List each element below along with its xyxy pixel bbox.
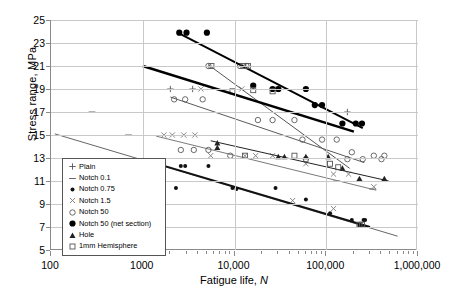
data-point-filled-circle (183, 30, 189, 36)
gridline-vertical (326, 20, 327, 250)
y-axis-tick-label: 9 (17, 198, 45, 210)
data-point-open-circle (70, 210, 75, 215)
data-point-small-filled-circle (350, 218, 354, 222)
x-axis-minor-tick (417, 251, 418, 256)
y-axis-tick-label: 25 (17, 14, 45, 26)
y-axis-tick-label: 11 (17, 175, 45, 187)
data-point-open-square (70, 244, 75, 249)
x-axis-minor-tick (219, 251, 220, 254)
y-axis-tick-label: 17 (17, 106, 45, 118)
x-axis-minor-tick (234, 251, 235, 256)
data-point-triangle (214, 145, 220, 150)
data-point-open-square (328, 161, 333, 166)
data-point-filled-circle (359, 120, 365, 126)
series-plain (167, 86, 350, 115)
data-point-open-circle (178, 147, 183, 152)
data-point-open-circle (191, 147, 196, 152)
legend-item-label: Plain (79, 163, 95, 171)
data-point-open-circle (349, 150, 354, 155)
legend-marker-open-circle-icon (66, 208, 79, 217)
x-axis-tick-label: 10,000 (194, 259, 274, 271)
data-point-open-circle (255, 117, 260, 122)
trendline (178, 33, 363, 128)
data-point-x (331, 206, 336, 211)
chart-figure: Stress range, MPa Fatigue life, N 579111… (0, 0, 459, 296)
data-point-open-circle (292, 117, 297, 122)
x-axis-minor-tick (50, 251, 51, 256)
legend-item-label: Hole (79, 231, 94, 239)
data-point-small-filled-circle (363, 218, 367, 222)
legend-item-label: Notch 0.1 (79, 174, 111, 182)
x-axis-minor-tick (261, 251, 262, 254)
x-axis-minor-tick (206, 251, 207, 254)
data-point-open-circle (319, 137, 324, 142)
legend-item: Plain (66, 161, 162, 172)
x-axis-minor-tick (369, 251, 370, 254)
data-point-plus (69, 163, 75, 169)
x-axis-tick-label: 100,000 (285, 259, 365, 271)
legend-marker-filled-circle-icon (66, 219, 79, 228)
legend-marker-plus-icon (66, 162, 79, 171)
data-point-small-filled-circle (179, 164, 183, 168)
legend-item: 1mm Hemisphere (66, 241, 162, 252)
series-notch-0-75 (153, 163, 370, 228)
data-point-x (290, 198, 295, 203)
x-axis-minor-tick (413, 251, 414, 254)
series-hole (211, 140, 389, 181)
x-axis-minor-tick (298, 251, 299, 254)
trendline (170, 97, 364, 163)
x-axis-minor-tick (229, 251, 230, 254)
chart-legend: PlainNotch 0.1Notch 0.75Notch 1.5Notch 5… (62, 158, 166, 256)
data-point-small-filled-circle (274, 186, 278, 190)
data-point-small-filled-circle (328, 211, 332, 215)
data-point-small-filled-circle (183, 164, 187, 168)
x-axis-tick-label: 1,000,000 (377, 259, 457, 271)
data-point-filled-circle (312, 102, 318, 108)
data-point-small-filled-circle (174, 186, 178, 190)
x-axis-minor-tick (397, 251, 398, 254)
data-point-small-filled-circle (71, 187, 75, 191)
legend-marker-small-filled-circle-icon (66, 185, 79, 194)
legend-item: Hole (66, 229, 162, 240)
data-point-filled-circle (204, 30, 210, 36)
legend-item-label: Notch 0.75 (79, 185, 115, 193)
y-axis-tick-label: 7 (17, 221, 45, 233)
x-axis-title-text: Fatigue life, (200, 274, 260, 286)
data-point-x (70, 198, 75, 203)
y-axis-tick-label: 15 (17, 129, 45, 141)
legend-item-label: Notch 50 (net section) (79, 220, 151, 228)
y-axis-tick-label: 23 (17, 37, 45, 49)
y-axis-tick-label: 5 (17, 244, 45, 256)
gridline-vertical (235, 20, 236, 250)
data-point-small-filled-circle (304, 197, 308, 201)
data-point-x (331, 172, 336, 177)
x-axis-minor-tick (311, 251, 312, 254)
x-axis-minor-tick (316, 251, 317, 254)
x-axis-minor-tick (289, 251, 290, 254)
x-axis-title-symbol: N (260, 274, 268, 286)
y-axis-tick-label: 13 (17, 152, 45, 164)
data-point-triangle (70, 232, 76, 237)
x-axis-tick-label: 100 (10, 259, 90, 271)
x-axis-minor-tick (389, 251, 390, 254)
trendline (153, 163, 370, 227)
y-axis-tick-label: 21 (17, 60, 45, 72)
x-axis-minor-tick (197, 251, 198, 254)
data-point-small-filled-circle (206, 164, 210, 168)
x-axis-minor-tick (353, 251, 354, 254)
x-axis-title: Fatigue life, N (50, 274, 418, 286)
series-notch-50-net-section (176, 30, 365, 129)
legend-marker-open-square-icon (66, 242, 79, 251)
legend-item: Notch 50 (66, 207, 162, 218)
x-axis-minor-tick (213, 251, 214, 254)
data-point-filled-circle (319, 102, 325, 108)
x-axis-minor-tick (325, 251, 326, 256)
legend-marker-triangle-icon (66, 231, 79, 240)
data-point-filled-circle (339, 120, 345, 126)
x-axis-minor-tick (225, 251, 226, 254)
legend-item: Notch 0.75 (66, 184, 162, 195)
x-axis-minor-tick (186, 251, 187, 254)
legend-item-label: 1mm Hemisphere (79, 242, 137, 250)
data-point-open-circle (270, 117, 275, 122)
data-point-filled-circle (69, 221, 75, 227)
